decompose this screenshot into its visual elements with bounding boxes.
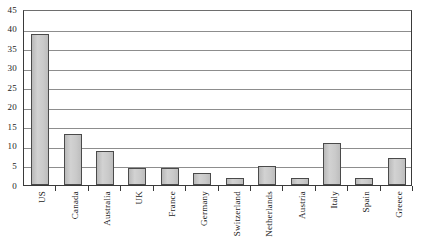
y-axis-tick-label: 45: [0, 6, 17, 15]
y-axis-tick-label: 10: [0, 142, 17, 151]
y-axis-tick-label: 5: [0, 162, 17, 171]
bar: [193, 173, 211, 186]
y-axis-tick-label: 40: [0, 25, 17, 34]
x-axis-category-label: Italy: [327, 191, 336, 209]
x-axis-category-text: US: [38, 191, 47, 203]
x-axis-category-label: Spain: [359, 191, 368, 213]
bar: [161, 168, 179, 185]
bar: [355, 178, 373, 185]
bar: [291, 178, 309, 185]
x-axis-category-text: Greece: [395, 191, 404, 218]
bar-chart: 051015202530354045 USCanadaAustraliaUKFr…: [0, 0, 425, 246]
x-axis-category-label: Netherlands: [262, 191, 271, 237]
x-axis-category-label: Germany: [197, 191, 206, 226]
x-axis-category-label: Switzerland: [230, 191, 239, 236]
bar: [258, 166, 276, 185]
bar: [64, 134, 82, 185]
x-axis-category-text: Austria: [298, 191, 307, 219]
x-axis-category-label: Austria: [295, 191, 304, 219]
x-axis-category-text: Australia: [103, 191, 112, 226]
bar: [388, 158, 406, 185]
x-axis-tick: [412, 186, 413, 191]
x-axis-category-text: Switzerland: [233, 191, 242, 236]
y-axis-tick-label: 25: [0, 84, 17, 93]
y-axis-tick-label: 35: [0, 45, 17, 54]
bar: [226, 178, 244, 185]
x-axis-category-label: UK: [132, 191, 141, 204]
x-axis-category-label: Canada: [68, 191, 77, 219]
x-axis-category-text: Germany: [200, 191, 209, 226]
x-axis-category-text: Canada: [71, 191, 80, 219]
bar: [128, 168, 146, 185]
x-axis-category-label: Greece: [392, 191, 401, 218]
bar: [31, 34, 49, 185]
bar: [323, 143, 341, 185]
y-axis-tick-label: 20: [0, 103, 17, 112]
bar: [96, 151, 114, 185]
y-axis-tick-label: 15: [0, 123, 17, 132]
x-axis-category-label: US: [35, 191, 44, 203]
x-axis-category-label: France: [165, 191, 174, 217]
x-axis-category-text: Netherlands: [265, 191, 274, 237]
y-axis-tick-label: 0: [0, 182, 17, 191]
y-axis-tick-label: 30: [0, 64, 17, 73]
x-axis-category-text: Spain: [362, 191, 371, 213]
x-axis-category-text: UK: [135, 191, 144, 204]
x-axis-labels: USCanadaAustraliaUKFranceGermanySwitzerl…: [23, 191, 412, 246]
x-axis-category-text: France: [168, 191, 177, 217]
y-axis: 051015202530354045: [0, 0, 17, 246]
x-axis-category-text: Italy: [330, 191, 339, 209]
x-axis-category-label: Australia: [100, 191, 109, 226]
plot-area: [23, 10, 412, 186]
bar-series: [24, 11, 411, 185]
